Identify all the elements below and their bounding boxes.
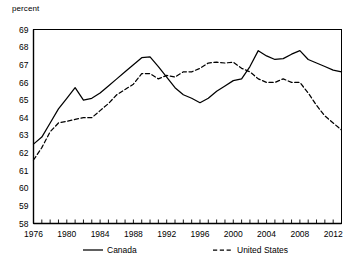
chart-plot-area: 585960616263646566676869 197619801984198… (0, 0, 354, 268)
y-tick-label: 60 (19, 183, 29, 193)
x-axis-tick-labels: 1976198019841988199219962000200420082012 (24, 229, 343, 239)
x-tick-label: 2004 (257, 229, 276, 239)
y-tick-label: 64 (19, 113, 29, 123)
chart-legend: CanadaUnited States (83, 245, 288, 255)
y-tick-label: 66 (19, 78, 29, 88)
y-tick-label: 59 (19, 201, 29, 211)
y-tick-label: 69 (19, 25, 29, 35)
y-tick-label: 63 (19, 130, 29, 140)
x-tick-label: 1996 (191, 229, 210, 239)
legend-label-united-states: United States (237, 245, 288, 255)
plot-frame (34, 30, 342, 224)
x-tick-label: 1984 (91, 229, 110, 239)
x-tick-label: 2012 (324, 229, 343, 239)
x-tick-label: 1976 (24, 229, 43, 239)
x-tick-label: 1980 (57, 229, 76, 239)
y-tick-label: 58 (19, 219, 29, 229)
y-tick-label: 67 (19, 60, 29, 70)
y-tick-label: 68 (19, 42, 29, 52)
x-tick-label: 2008 (290, 229, 309, 239)
series-line-canada (34, 51, 342, 144)
x-tick-label: 1992 (157, 229, 176, 239)
x-tick-label: 1988 (124, 229, 143, 239)
legend-label-canada: Canada (107, 245, 137, 255)
y-tick-label: 65 (19, 95, 29, 105)
x-tick-label: 2000 (224, 229, 243, 239)
series-line-united-states (34, 62, 342, 160)
percent-line-chart: percent 585960616263646566676869 1976198… (0, 0, 354, 268)
y-tick-label: 61 (19, 166, 29, 176)
y-axis-tick-labels: 585960616263646566676869 (19, 25, 29, 229)
y-tick-label: 62 (19, 148, 29, 158)
data-series-lines (34, 51, 342, 160)
